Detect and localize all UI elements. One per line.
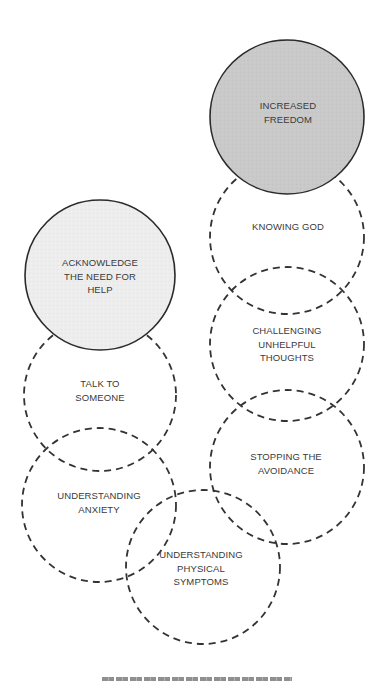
node-label-stopping-the-avoidance: STOPPING THE AVOIDANCE (250, 450, 322, 477)
node-label-increased-freedom: INCREASED FREEDOM (260, 99, 316, 126)
node-label-understanding-anxiety: UNDERSTANDING ANXIETY (57, 489, 140, 516)
clipped-caption (102, 677, 292, 681)
node-label-talk-to-someone: TALK TO SOMEONE (75, 377, 124, 404)
node-label-challenging-unhelpful-thoughts: CHALLENGING UNHELPFUL THOUGHTS (252, 324, 321, 365)
caption-text-fragment (102, 677, 292, 681)
node-label-understanding-physical-symptoms: UNDERSTANDING PHYSICAL SYMPTOMS (159, 548, 242, 589)
node-label-knowing-god: KNOWING GOD (252, 220, 324, 234)
node-label-acknowledge-the-need-for-help: ACKNOWLEDGE THE NEED FOR HELP (62, 256, 138, 297)
